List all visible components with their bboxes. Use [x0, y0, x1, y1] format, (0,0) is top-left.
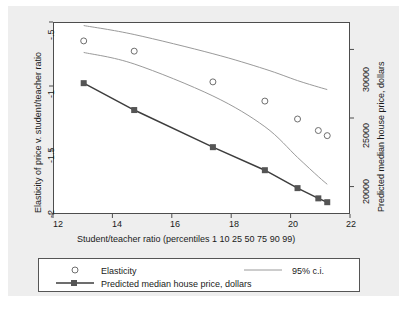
- y-right-tick-label: 30000: [362, 67, 371, 92]
- legend: Elasticity 95% c.i. Predicted median hou…: [38, 258, 360, 292]
- x-tick-label: 14: [112, 220, 122, 229]
- legend-label-price[interactable]: Predicted median house price, dollars: [101, 280, 252, 289]
- legend-label-elasticity[interactable]: Elasticity: [101, 267, 137, 276]
- x-tick-label: 22: [346, 220, 356, 229]
- x-tick-label: 18: [229, 220, 239, 229]
- x-tick-label: 16: [170, 220, 180, 229]
- x-tick-label: 12: [53, 220, 63, 229]
- y-left-tick-label: -1: [47, 90, 56, 98]
- x-tick-label: 20: [288, 220, 298, 229]
- legend-elasticity-marker: [72, 267, 78, 273]
- legend-price-marker: [71, 280, 77, 286]
- y-right-tick-label: 25000: [362, 123, 371, 148]
- y-left-tick-label: -2: [47, 210, 56, 218]
- chart-screenshot: -.5 -1 -1.5 -2 Elasticity of price v. st…: [0, 0, 407, 310]
- legend-label-ci[interactable]: 95% c.i.: [292, 267, 324, 276]
- x-axis-title: Student/teacher ratio (percentiles 1 10 …: [77, 235, 295, 244]
- y-right-axis-title: Predicted median house price, dollars: [377, 61, 386, 212]
- y-right-tick-label: 20000: [362, 179, 371, 204]
- y-left-tick-label: -1.5: [47, 147, 56, 163]
- y-left-axis-title: Elasticity of price v. student/teacher r…: [34, 52, 43, 213]
- y-left-tick-label: -.5: [47, 29, 56, 40]
